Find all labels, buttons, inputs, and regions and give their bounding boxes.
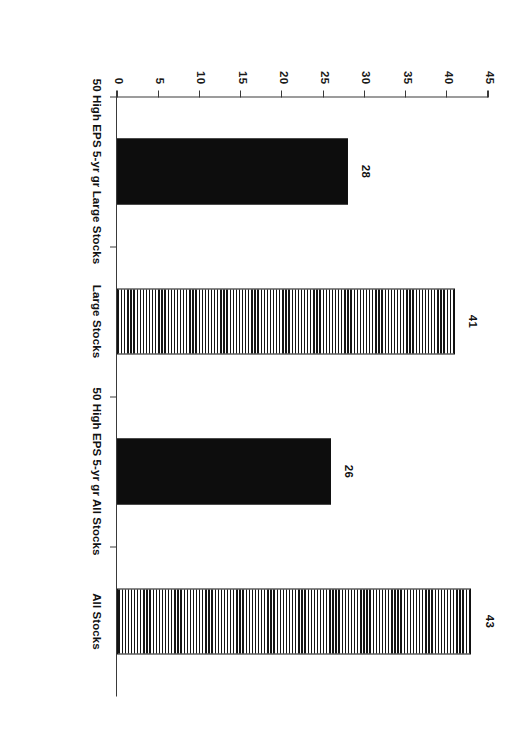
rotated-figure: 051015202530354045 2850 High EPS 5-yr gr… — [0, 0, 524, 731]
y-tick-label-40: 40 — [443, 46, 455, 84]
y-tick-15 — [240, 90, 241, 97]
x-tick-2 — [110, 396, 117, 397]
y-tick-5 — [158, 90, 159, 97]
y-tick-label-5: 5 — [154, 46, 166, 84]
y-tick-10 — [199, 90, 200, 97]
y-tick-label-20: 20 — [278, 46, 290, 84]
bar-0[interactable] — [117, 138, 348, 204]
chart-plot-area: 051015202530354045 2850 High EPS 5-yr gr… — [0, 0, 524, 731]
category-label-1: Large Stocks — [91, 284, 103, 357]
bar-1[interactable] — [117, 288, 455, 354]
y-tick-30 — [364, 90, 365, 97]
y-tick-40 — [446, 90, 447, 97]
y-tick-25 — [323, 90, 324, 97]
y-tick-label-35: 35 — [402, 46, 414, 84]
category-label-2: 50 High EPS 5-yr gr All Stocks — [91, 387, 103, 555]
x-tick-1 — [110, 246, 117, 247]
y-axis-line — [116, 96, 488, 97]
bar-value-label-2: 26 — [343, 451, 355, 491]
y-tick-label-25: 25 — [319, 46, 331, 84]
y-tick-label-15: 15 — [237, 46, 249, 84]
bar-value-label-0: 28 — [360, 151, 372, 191]
y-tick-label-0: 0 — [113, 46, 125, 84]
x-tick-0 — [110, 96, 117, 97]
bar-value-label-3: 43 — [484, 601, 496, 641]
y-tick-label-10: 10 — [195, 46, 207, 84]
y-tick-label-45: 45 — [484, 46, 496, 84]
bar-3[interactable] — [117, 588, 472, 654]
x-tick-3 — [110, 546, 117, 547]
y-tick-20 — [281, 90, 282, 97]
bar-value-label-1: 41 — [467, 301, 479, 341]
y-tick-45 — [487, 90, 488, 97]
bar-2[interactable] — [117, 438, 331, 504]
y-tick-35 — [405, 90, 406, 97]
category-label-3: All Stocks — [91, 593, 103, 650]
y-tick-label-30: 30 — [360, 46, 372, 84]
category-label-0: 50 High EPS 5-yr gr Large Stocks — [91, 78, 103, 263]
